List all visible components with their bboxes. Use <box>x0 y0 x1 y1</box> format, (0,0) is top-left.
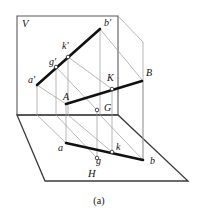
marker-k <box>110 150 114 154</box>
link-line-k-K <box>68 57 112 89</box>
label-A: A <box>62 91 70 102</box>
figure-caption: (a) <box>0 195 198 206</box>
projection-figure: V H b′ k′ g′ a′ B K A G a k g b (a) <box>0 0 198 221</box>
label-b: b <box>150 155 155 166</box>
label-K: K <box>106 72 115 83</box>
label-B: B <box>146 67 152 78</box>
horizontal-plane-outline <box>17 115 188 181</box>
plane-outlines <box>17 16 188 181</box>
label-plane-H: H <box>87 168 97 179</box>
label-a-prime: a′ <box>28 74 36 85</box>
label-b-prime: b′ <box>104 17 112 28</box>
label-G: G <box>104 102 111 113</box>
edge-line-v-right-depth <box>118 16 143 42</box>
segment-A-B <box>66 81 142 104</box>
link-line-a-A <box>37 85 66 104</box>
label-a: a <box>58 142 63 153</box>
label-k-prime: k′ <box>62 40 69 51</box>
marker-k-prime <box>66 55 70 59</box>
marker-G <box>95 108 99 112</box>
label-g-prime: g′ <box>49 56 57 67</box>
label-k: k <box>116 141 121 152</box>
depth-line-a <box>37 115 66 143</box>
marker-K <box>110 87 114 91</box>
projection-drawing: V H b′ k′ g′ a′ B K A G a k g b <box>0 0 198 221</box>
label-g: g <box>96 155 101 166</box>
segment-lines <box>37 29 143 160</box>
label-plane-V: V <box>22 18 30 29</box>
